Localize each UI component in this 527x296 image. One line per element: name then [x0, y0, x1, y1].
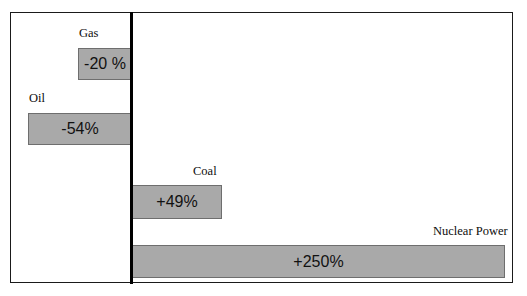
bar-gas: -20 % — [78, 48, 132, 80]
bar-value-nuclear-power: +250% — [293, 254, 343, 270]
bar-label-gas: Gas — [79, 27, 98, 40]
bar-coal: +49% — [132, 185, 222, 219]
bar-oil: -54% — [28, 113, 132, 145]
bar-value-gas: -20 % — [84, 56, 126, 72]
bar-label-nuclear-power: Nuclear Power — [433, 225, 508, 238]
bar-nuclear-power: +250% — [132, 245, 505, 278]
bar-value-oil: -54% — [61, 121, 98, 137]
chart-container: Gas -20 % Oil -54% Coal +49% Nuclear Pow… — [0, 0, 527, 296]
bar-label-coal: Coal — [193, 165, 217, 178]
bar-value-coal: +49% — [156, 194, 197, 210]
zero-baseline-axis — [130, 12, 133, 284]
bar-label-oil: Oil — [29, 92, 45, 105]
